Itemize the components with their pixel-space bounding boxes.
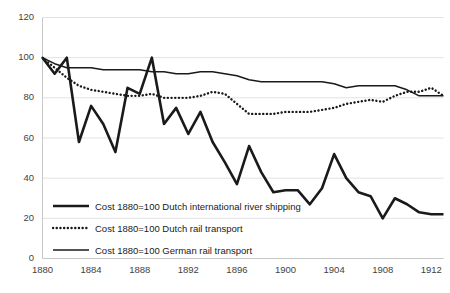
x-tick-label: 1896 [217,264,257,275]
legend-label: Cost 1880=100 Dutch rail transport [95,223,243,234]
x-tick-label: 1904 [314,264,354,275]
legend-swatch-dotted-icon [52,222,90,234]
legend-item-1[interactable]: Cost 1880=100 Dutch rail transport [52,222,301,234]
x-tick-label: 1912 [411,264,450,275]
chart-legend: Cost 1880=100 Dutch international river … [52,200,301,256]
y-tick-label: 0 [4,252,34,263]
x-tick-label: 1880 [23,264,63,275]
y-tick-label: 80 [4,91,34,102]
legend-item-0[interactable]: Cost 1880=100 Dutch international river … [52,200,301,212]
legend-swatch-thin-solid-icon [52,244,90,256]
x-tick-label: 1908 [363,264,403,275]
y-tick-label: 60 [4,132,34,143]
y-tick-label: 40 [4,172,34,183]
line-chart: 120100806040200 188018841888189218961900… [0,0,450,293]
series-line-2 [43,58,444,96]
x-tick-label: 1892 [168,264,208,275]
x-tick-label: 1888 [120,264,160,275]
x-tick-label: 1884 [71,264,111,275]
y-tick-label: 20 [4,212,34,223]
x-tick-label: 1900 [266,264,306,275]
legend-label: Cost 1880=100 German rail transport [95,245,252,256]
y-tick-label: 100 [4,51,34,62]
legend-swatch-thick-solid-icon [52,200,90,212]
y-tick-label: 120 [4,11,34,22]
legend-label: Cost 1880=100 Dutch international river … [95,201,301,212]
legend-item-2[interactable]: Cost 1880=100 German rail transport [52,244,301,256]
